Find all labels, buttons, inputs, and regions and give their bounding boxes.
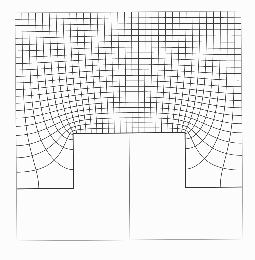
curvilinear-mesh-canvas	[0, 0, 255, 260]
grid-generation-figure	[0, 0, 255, 260]
